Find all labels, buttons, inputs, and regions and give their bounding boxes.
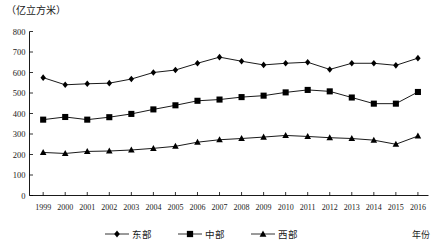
legend-marker <box>260 230 267 236</box>
x-tick-label: 2011 <box>300 203 316 212</box>
data-point-marker <box>282 132 289 138</box>
data-point-marker <box>84 117 90 123</box>
x-tick-label: 2005 <box>167 203 183 212</box>
data-point-marker <box>239 94 245 100</box>
x-tick-label: 2000 <box>57 203 73 212</box>
data-point-marker <box>40 117 46 123</box>
x-tick-label: 2016 <box>410 203 426 212</box>
y-tick-label: 200 <box>13 150 26 160</box>
series-line <box>43 135 418 153</box>
y-tick-label: 300 <box>13 129 26 139</box>
data-point-marker <box>393 101 399 107</box>
y-axis-ticks: 0100200300400500600700800 <box>13 27 33 201</box>
data-point-marker <box>261 62 266 69</box>
data-point-marker <box>371 101 377 107</box>
data-point-marker <box>106 114 112 120</box>
chart-legend: 东部中部西部 <box>105 229 298 240</box>
data-point-marker <box>327 88 333 94</box>
data-point-marker <box>151 69 156 76</box>
data-point-marker <box>305 59 310 66</box>
y-tick-label: 800 <box>13 27 26 37</box>
data-point-marker <box>305 87 311 93</box>
data-point-marker <box>261 93 267 99</box>
y-tick-label: 500 <box>13 88 26 98</box>
y-tick-label: 100 <box>13 170 26 180</box>
legend-item[interactable]: 中部 <box>178 229 225 240</box>
data-point-marker <box>85 80 90 87</box>
data-point-marker <box>216 97 222 103</box>
series-line <box>43 57 418 85</box>
chart-figure: （亿立方米） 年份 0100200300400500600700800 1999… <box>0 0 434 250</box>
x-tick-label: 2004 <box>145 203 161 212</box>
data-series <box>40 132 421 156</box>
data-point-marker <box>63 82 68 89</box>
data-point-marker <box>415 55 420 62</box>
x-tick-label: 2015 <box>388 203 404 212</box>
y-tick-label: 0 <box>21 191 25 201</box>
data-point-marker <box>128 111 134 117</box>
data-point-marker <box>415 89 421 95</box>
data-point-marker <box>239 58 244 65</box>
data-series <box>40 54 420 88</box>
x-axis-ticks: 1999200020012002200320042005200620072008… <box>35 192 426 212</box>
x-tick-label: 2010 <box>278 203 294 212</box>
data-point-marker <box>393 62 398 69</box>
legend-marker <box>114 231 120 238</box>
x-tick-label: 2006 <box>189 203 205 212</box>
legend-label: 东部 <box>132 229 152 240</box>
data-point-marker <box>283 60 288 67</box>
x-tick-label: 2003 <box>123 203 139 212</box>
data-point-marker <box>371 60 376 67</box>
legend-label: 西部 <box>278 229 298 240</box>
data-point-marker <box>349 94 355 100</box>
x-tick-label: 2014 <box>366 203 382 212</box>
data-point-marker <box>40 149 47 155</box>
x-tick-label: 2002 <box>101 203 117 212</box>
x-tick-label: 1999 <box>35 203 51 212</box>
x-tick-label: 2013 <box>344 203 360 212</box>
legend-item[interactable]: 西部 <box>251 229 298 240</box>
x-tick-label: 2008 <box>234 203 250 212</box>
x-tick-label: 2001 <box>79 203 95 212</box>
data-point-marker <box>349 60 354 67</box>
axis-lines <box>30 32 429 196</box>
y-tick-label: 400 <box>13 109 26 119</box>
x-tick-label: 2007 <box>212 203 228 212</box>
data-point-marker <box>172 102 178 108</box>
data-point-marker <box>283 89 289 95</box>
data-point-marker <box>150 106 156 112</box>
series-line <box>43 90 418 120</box>
data-point-marker <box>173 67 178 74</box>
data-point-marker <box>195 60 200 67</box>
data-series-group <box>40 54 421 156</box>
data-point-marker <box>327 66 332 73</box>
legend-item[interactable]: 东部 <box>105 229 152 240</box>
chart-plot-area: 0100200300400500600700800 19992000200120… <box>0 0 434 250</box>
legend-label: 中部 <box>205 229 225 240</box>
data-point-marker <box>40 74 45 81</box>
data-point-marker <box>129 76 134 83</box>
legend-marker <box>187 231 193 237</box>
y-tick-label: 700 <box>13 47 26 57</box>
data-point-marker <box>107 80 112 87</box>
x-tick-label: 2012 <box>322 203 338 212</box>
data-point-marker <box>62 114 68 120</box>
y-tick-label: 600 <box>13 68 26 78</box>
data-point-marker <box>217 54 222 61</box>
data-series <box>40 87 421 123</box>
data-point-marker <box>194 98 200 104</box>
x-tick-label: 2009 <box>256 203 272 212</box>
data-point-marker <box>415 133 422 139</box>
